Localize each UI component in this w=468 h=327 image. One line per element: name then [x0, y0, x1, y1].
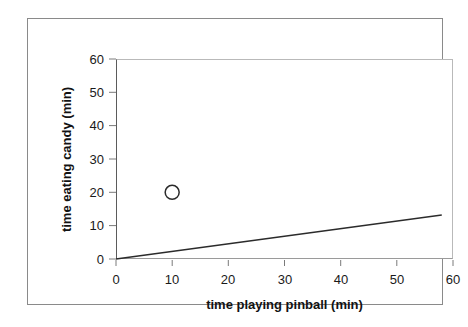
- x-tick-label-60: 60: [433, 273, 468, 286]
- x-tick-label-50: 50: [377, 273, 417, 286]
- x-tick-label-30: 30: [265, 273, 305, 286]
- x-tick-label-20: 20: [208, 273, 248, 286]
- y-axis-ticks: [108, 53, 120, 265]
- x-axis-title: time playing pinball (min): [116, 297, 453, 312]
- x-tick-label-40: 40: [321, 273, 361, 286]
- figure-root: 60 50 40 30 20 10 0 0 10 20 30 40 50 60 …: [0, 0, 468, 327]
- trend-line: [116, 215, 442, 259]
- y-axis-title: time eating candy (min): [59, 60, 74, 260]
- x-tick-label-10: 10: [152, 273, 192, 286]
- x-axis-ticks: [110, 259, 460, 271]
- data-point-marker: [165, 185, 179, 199]
- x-tick-label-0: 0: [96, 273, 136, 286]
- plot-canvas: [116, 59, 453, 259]
- figure-outer-frame: 60 50 40 30 20 10 0 0 10 20 30 40 50 60 …: [27, 18, 443, 305]
